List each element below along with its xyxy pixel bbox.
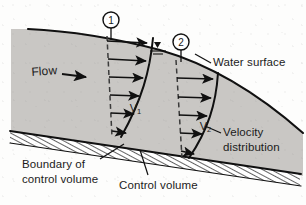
control-volume-label: Control volume [119, 179, 198, 192]
flow-label: Flow [31, 64, 58, 79]
section-1-label: 1 [103, 14, 119, 27]
flow-diagram-figure: 1 2 Flow Water surface Velocity distribu… [0, 0, 306, 205]
water-surface-label: Water surface [213, 56, 285, 69]
section-2-label: 2 [173, 36, 189, 49]
velocity-2-symbol: V [200, 120, 207, 132]
velocity-2-subscript: 2 [207, 125, 211, 134]
leader-water-surface [195, 54, 211, 63]
velocity-distribution-label-line1: Velocity [223, 126, 263, 139]
boundary-of-control-volume-label-line1: Boundary of [22, 158, 85, 171]
velocity-1-subscript: 1 [137, 107, 141, 116]
boundary-of-control-volume-label-line2: control volume [22, 173, 98, 186]
velocity-distribution-label-line2: distribution [223, 141, 280, 154]
velocity-1-label: V1 [117, 89, 141, 131]
velocity-2-label: V2 [187, 107, 211, 149]
velocity-1-symbol: V [130, 102, 137, 114]
